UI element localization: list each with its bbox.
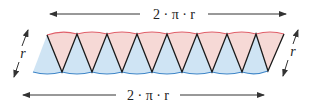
right-radius-arrow: r — [283, 30, 298, 76]
left-radius-arrow: r — [14, 30, 28, 77]
bottom-length-label: 2 · π · r — [127, 88, 169, 103]
sector-rearrangement-diagram: 2 · π · r 2 · π · r r — [0, 0, 311, 106]
bottom-dimension-arrow: 2 · π · r — [23, 88, 264, 103]
right-radius-label: r — [290, 44, 296, 59]
left-radius-label: r — [20, 46, 26, 61]
top-length-label: 2 · π · r — [153, 7, 195, 22]
top-dimension-arrow: 2 · π · r — [50, 7, 286, 22]
